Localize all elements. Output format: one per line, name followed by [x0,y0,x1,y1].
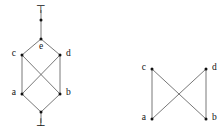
node-dot-b [205,118,208,121]
node-dot-a [21,93,24,96]
node-label-c: c [12,48,16,58]
node-dot-c [151,68,154,71]
node-dot-n_top [40,19,43,22]
node-dot-n_bot [40,111,43,114]
node-glyph-top: ⊤ [36,3,46,15]
edge-b-n_bot [41,94,60,112]
node-glyph-bottom: ⊥ [36,116,46,128]
bounded-lattice-diagram: ⊤ecdab⊥ [12,3,71,128]
edge-a-n_bot [22,94,41,112]
node-label-e: e [39,41,43,51]
node-label-c: c [142,62,146,72]
node-dot-e [40,38,43,41]
node-label-a: a [12,87,17,97]
hasse-diagram-figure: ⊤ecdab⊥cdab [0,0,224,134]
diagram-canvas: ⊤ecdab⊥cdab [0,0,224,134]
node-dot-b [59,93,62,96]
node-label-b: b [212,112,217,122]
node-dot-c [21,54,24,57]
unbounded-poset-diagram: cdab [142,62,217,122]
node-dot-a [151,118,154,121]
node-label-d: d [66,48,71,58]
edge-e-d [41,39,60,55]
node-dot-d [59,54,62,57]
node-label-d: d [212,62,217,72]
node-label-a: a [142,112,147,122]
node-label-b: b [66,87,71,97]
node-dot-d [205,68,208,71]
